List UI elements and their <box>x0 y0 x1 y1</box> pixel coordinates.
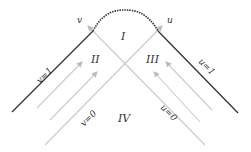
line-label-u0: u=0 <box>159 102 180 123</box>
region-label-iii: III <box>145 53 160 66</box>
null-line-u0 <box>88 26 205 145</box>
penrose-diagram: I II III IV v u v=1 u=1 v=0 u=0 <box>0 0 251 152</box>
region-label-iv: IV <box>117 112 131 125</box>
singularity-arc <box>93 10 158 31</box>
region-label-ii: II <box>90 53 100 66</box>
axis-label-u: u <box>167 15 173 25</box>
null-line-v0 <box>45 26 162 145</box>
boundary-line-u1 <box>158 31 238 113</box>
region-label-i: I <box>120 30 126 43</box>
line-label-v1: v=1 <box>34 65 54 85</box>
line-label-v0: v=0 <box>78 108 98 128</box>
axis-label-v: v <box>77 15 82 25</box>
